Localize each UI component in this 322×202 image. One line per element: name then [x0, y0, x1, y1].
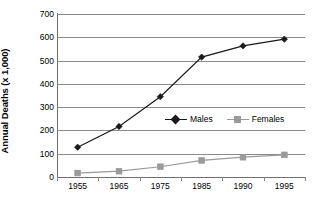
x-axis-tick — [305, 177, 306, 181]
diamond-marker-icon — [165, 114, 187, 124]
x-axis-tick-label: 1995 — [262, 182, 306, 191]
x-axis-tick — [222, 177, 223, 181]
y-axis-tick-label: 500 — [28, 56, 54, 65]
gridline — [57, 61, 305, 62]
y-axis-title: Annual Deaths (x 1,000) — [0, 0, 22, 202]
legend-entry-males[interactable]: Males — [165, 114, 213, 124]
gridline — [57, 107, 305, 108]
legend-label: Females — [252, 115, 285, 124]
plot-area — [57, 14, 305, 177]
legend-entry-females[interactable]: Females — [227, 114, 285, 124]
gridline — [57, 130, 305, 131]
y-axis-tick-label: 200 — [28, 126, 54, 135]
x-axis-tick — [57, 177, 58, 181]
y-axis-tick-label: 300 — [28, 103, 54, 112]
x-axis-tick-label: 1965 — [97, 182, 141, 191]
gridline — [57, 154, 305, 155]
x-axis-tick — [181, 177, 182, 181]
y-axis-tick-label: 100 — [28, 149, 54, 158]
y-axis-tick-label: 700 — [28, 10, 54, 19]
line-chart: Annual Deaths (x 1,000) 7006005004003002… — [0, 0, 322, 202]
chart-legend: MalesFemales — [163, 111, 286, 127]
x-axis-tick — [264, 177, 265, 181]
legend-label: Males — [190, 115, 213, 124]
x-axis-tick — [98, 177, 99, 181]
y-axis-tick-label: 0 — [28, 173, 54, 182]
gridline — [57, 14, 305, 15]
gridline — [57, 37, 305, 38]
x-axis-tick-label: 1985 — [180, 182, 224, 191]
x-axis-tick-label: 1975 — [138, 182, 182, 191]
square-marker-icon — [227, 114, 249, 124]
y-axis-tick-label: 400 — [28, 80, 54, 89]
gridline — [57, 84, 305, 85]
y-axis-tick-label: 600 — [28, 33, 54, 42]
x-axis-tick-label: 1990 — [221, 182, 265, 191]
x-axis-tick-label: 1955 — [56, 182, 100, 191]
x-axis-tick — [140, 177, 141, 181]
